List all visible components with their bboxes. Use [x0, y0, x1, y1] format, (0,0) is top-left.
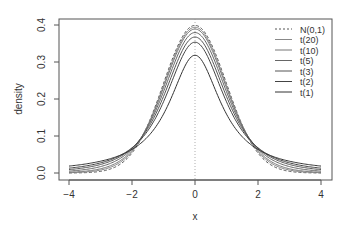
legend-label: t(5) [300, 56, 314, 66]
x-tick-label: 0 [192, 189, 198, 200]
legend-label: t(20) [300, 35, 319, 45]
density-curves [69, 25, 321, 173]
legend-label: t(2) [300, 77, 314, 87]
y-tick-label: 0.1 [36, 129, 47, 143]
y-tick-label: 0.3 [36, 55, 47, 69]
x-tick-label: −4 [63, 189, 75, 200]
legend: N(0,1)t(20)t(10)t(5)t(3)t(2)t(1) [275, 25, 325, 98]
curve-t-1 [69, 55, 321, 166]
legend-label: N(0,1) [300, 25, 325, 35]
x-tick-label: 4 [318, 189, 324, 200]
t-distribution-density-chart: −4−2024 0.00.10.20.30.4 x density N(0,1)… [0, 0, 347, 232]
curve-t-5 [69, 33, 321, 172]
legend-label: t(1) [300, 88, 314, 98]
y-axis: 0.00.10.20.30.4 [36, 18, 59, 180]
x-tick-label: 2 [255, 189, 261, 200]
x-tick-label: −2 [126, 189, 138, 200]
curve-n-0-1 [69, 25, 321, 173]
x-axis-label: x [193, 211, 198, 222]
y-tick-label: 0.4 [36, 18, 47, 32]
legend-label: t(10) [300, 46, 319, 56]
legend-label: t(3) [300, 67, 314, 77]
x-axis: −4−2024 [63, 180, 324, 200]
y-tick-label: 0.2 [36, 92, 47, 106]
y-tick-label: 0.0 [36, 166, 47, 180]
y-axis-label: density [13, 83, 24, 115]
plot-frame [59, 19, 332, 180]
